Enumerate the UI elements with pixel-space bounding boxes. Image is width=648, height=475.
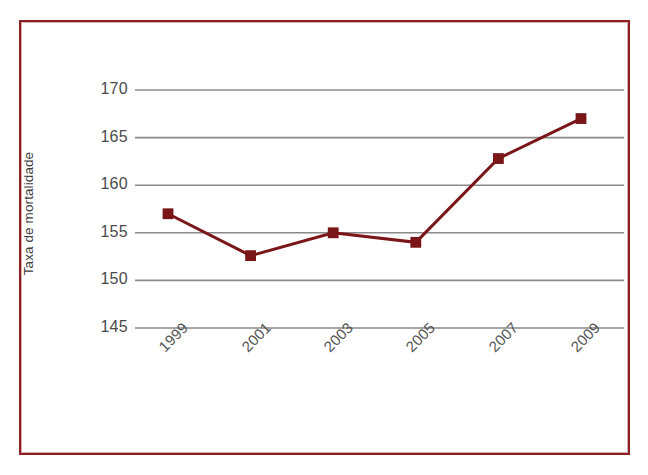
data-point-2003 <box>328 227 339 238</box>
gridlines <box>135 90 624 328</box>
y-tick-label-150: 150 <box>84 270 128 288</box>
data-point-2007 <box>493 153 504 164</box>
data-point-2001 <box>245 250 256 261</box>
data-point-2005 <box>410 237 421 248</box>
y-axis-title: Taxa de mortalidade <box>21 124 36 304</box>
y-tick-label-165: 165 <box>84 128 128 146</box>
caption-sliver <box>14 469 634 475</box>
data-point-2009 <box>576 113 587 124</box>
y-tick-label-155: 155 <box>84 223 128 241</box>
y-tick-label-145: 145 <box>84 318 128 336</box>
data-point-1999 <box>163 208 174 219</box>
y-tick-label-160: 160 <box>84 175 128 193</box>
y-tick-label-170: 170 <box>84 80 128 98</box>
series-taxa-de-mortalidade <box>163 113 587 261</box>
figure-root: Taxa de mortalidade 170 165 160 155 150 … <box>0 0 648 475</box>
series-line <box>168 119 581 256</box>
